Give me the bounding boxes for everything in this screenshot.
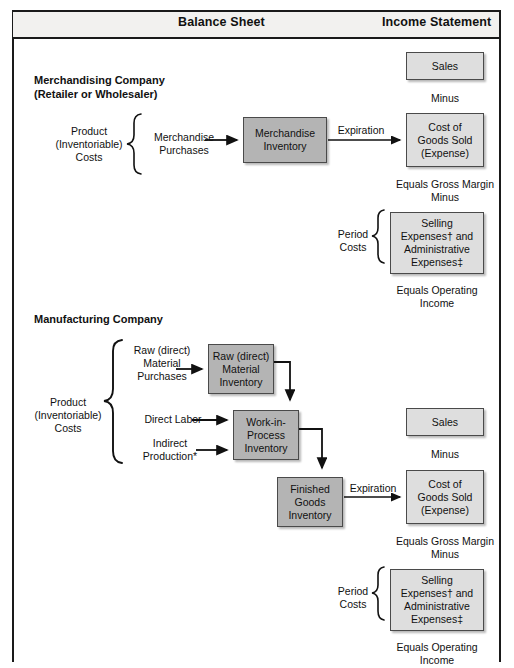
mfg-product-costs-line2: (Inventoriable) bbox=[20, 409, 116, 422]
wip-line1: Work-in- bbox=[244, 416, 287, 429]
wip-line2: Process bbox=[244, 429, 287, 442]
manufacturing-expiration-label: Expiration bbox=[343, 482, 403, 495]
manufacturing-equals-operating-line1: Equals Operating bbox=[383, 641, 491, 654]
product-costs-line1: Product bbox=[41, 125, 137, 138]
mfg-sga-line1: Selling bbox=[401, 574, 473, 587]
mfg-sales-label: Sales bbox=[432, 416, 458, 429]
merchandising-minus-2: Minus bbox=[383, 191, 507, 204]
merchandising-equals-operating-line1: Equals Operating bbox=[383, 284, 491, 297]
mfg-period-costs-line1: Period bbox=[331, 585, 375, 598]
raw-purchases-line3: Purchases bbox=[124, 370, 200, 383]
finished-goods-line3: Inventory bbox=[288, 509, 331, 522]
merch-purchases-line2: Purchases bbox=[146, 144, 222, 157]
manufacturing-equals-operating-line2: Income bbox=[383, 654, 491, 667]
manufacturing-product-costs-label: Product (Inventoriable) Costs bbox=[20, 396, 116, 435]
merchandising-expiration-label: Expiration bbox=[331, 124, 391, 137]
box-sga-manufacturing: Selling Expenses† and Administrative Exp… bbox=[390, 569, 484, 631]
period-costs-line2: Costs bbox=[331, 241, 375, 254]
sga-line3: Administrative bbox=[401, 243, 473, 256]
cogs-line2: Goods Sold bbox=[418, 134, 473, 147]
mfg-sga-line2: Expenses† and bbox=[401, 587, 473, 600]
cost-flow-diagram: Balance Sheet Income Statement Merchandi… bbox=[0, 0, 514, 668]
direct-labor-label: Direct Labor bbox=[137, 413, 209, 426]
connector-wip-to-finished-goods bbox=[299, 429, 322, 468]
manufacturing-minus-1: Minus bbox=[406, 448, 484, 461]
mfg-product-costs-line3: Costs bbox=[20, 422, 116, 435]
mfg-sga-line3: Administrative bbox=[401, 600, 473, 613]
finished-goods-line1: Finished bbox=[288, 483, 331, 496]
mfg-cogs-line1: Cost of bbox=[418, 478, 473, 491]
sga-line2: Expenses† and bbox=[401, 230, 473, 243]
merchandising-minus-1: Minus bbox=[406, 92, 484, 105]
box-sga-merchandising: Selling Expenses† and Administrative Exp… bbox=[390, 212, 484, 274]
box-sales-merchandising: Sales bbox=[406, 52, 484, 80]
merchandising-product-costs-label: Product (Inventoriable) Costs bbox=[41, 125, 137, 164]
box-merchandise-inventory: Merchandise Inventory bbox=[243, 117, 327, 163]
frame-left-border bbox=[12, 10, 14, 662]
merchandising-heading-line2: (Retailer or Wholesaler) bbox=[34, 87, 165, 101]
indirect-production-label: Indirect Production* bbox=[131, 437, 209, 463]
sga-line4: Expenses‡ bbox=[401, 256, 473, 269]
merch-inventory-line2: Inventory bbox=[255, 140, 315, 153]
merchandising-equals-operating-line2: Income bbox=[383, 297, 491, 310]
raw-inventory-line3: Inventory bbox=[213, 376, 270, 389]
column-header-income-statement: Income Statement bbox=[382, 15, 491, 29]
manufacturing-equals-gross-margin: Equals Gross Margin bbox=[383, 535, 507, 548]
mfg-cogs-line2: Goods Sold bbox=[418, 491, 473, 504]
column-header-balance-sheet: Balance Sheet bbox=[178, 15, 265, 29]
header-top-rule bbox=[12, 10, 501, 12]
period-costs-line1: Period bbox=[331, 228, 375, 241]
merch-inventory-line1: Merchandise bbox=[255, 127, 315, 140]
manufacturing-period-costs-label: Period Costs bbox=[331, 585, 375, 611]
cogs-line3: (Expense) bbox=[418, 147, 473, 160]
product-costs-line3: Costs bbox=[41, 151, 137, 164]
box-sales-manufacturing: Sales bbox=[406, 408, 484, 436]
mfg-sga-line4: Expenses‡ bbox=[401, 613, 473, 626]
product-costs-line2: (Inventoriable) bbox=[41, 138, 137, 151]
merchandising-heading-line1: Merchandising Company bbox=[34, 73, 165, 87]
raw-purchases-line2: Material bbox=[124, 357, 200, 370]
indirect-production-line1: Indirect bbox=[131, 437, 209, 450]
raw-material-purchases-label: Raw (direct) Material Purchases bbox=[124, 344, 200, 383]
merchandising-equals-gross-margin: Equals Gross Margin bbox=[383, 178, 507, 191]
mfg-period-costs-line2: Costs bbox=[331, 598, 375, 611]
mfg-product-costs-line1: Product bbox=[20, 396, 116, 409]
sga-line1: Selling bbox=[401, 217, 473, 230]
raw-purchases-line1: Raw (direct) bbox=[124, 344, 200, 357]
box-raw-material-inventory: Raw (direct) Material Inventory bbox=[208, 344, 274, 394]
wip-line3: Inventory bbox=[244, 442, 287, 455]
merchandising-heading: Merchandising Company (Retailer or Whole… bbox=[34, 73, 165, 101]
merchandise-purchases-label: Merchandise Purchases bbox=[146, 131, 222, 157]
indirect-production-line2: Production* bbox=[131, 450, 209, 463]
raw-inventory-line2: Material bbox=[213, 363, 270, 376]
raw-inventory-line1: Raw (direct) bbox=[213, 350, 270, 363]
merch-purchases-line1: Merchandise bbox=[146, 131, 222, 144]
box-work-in-process-inventory: Work-in- Process Inventory bbox=[233, 410, 299, 460]
box-finished-goods-inventory: Finished Goods Inventory bbox=[277, 477, 343, 527]
header-bottom-rule bbox=[12, 37, 501, 39]
frame-right-border bbox=[499, 10, 501, 662]
manufacturing-heading: Manufacturing Company bbox=[34, 312, 163, 326]
connector-raw-inventory-to-wip bbox=[274, 362, 290, 400]
box-cogs-manufacturing: Cost of Goods Sold (Expense) bbox=[406, 470, 484, 524]
box-cogs-merchandising: Cost of Goods Sold (Expense) bbox=[406, 113, 484, 167]
finished-goods-line2: Goods bbox=[288, 496, 331, 509]
merchandising-period-costs-label: Period Costs bbox=[331, 228, 375, 254]
mfg-cogs-line3: (Expense) bbox=[418, 504, 473, 517]
sales-label: Sales bbox=[432, 60, 458, 73]
manufacturing-minus-2: Minus bbox=[383, 548, 507, 561]
cogs-line1: Cost of bbox=[418, 121, 473, 134]
